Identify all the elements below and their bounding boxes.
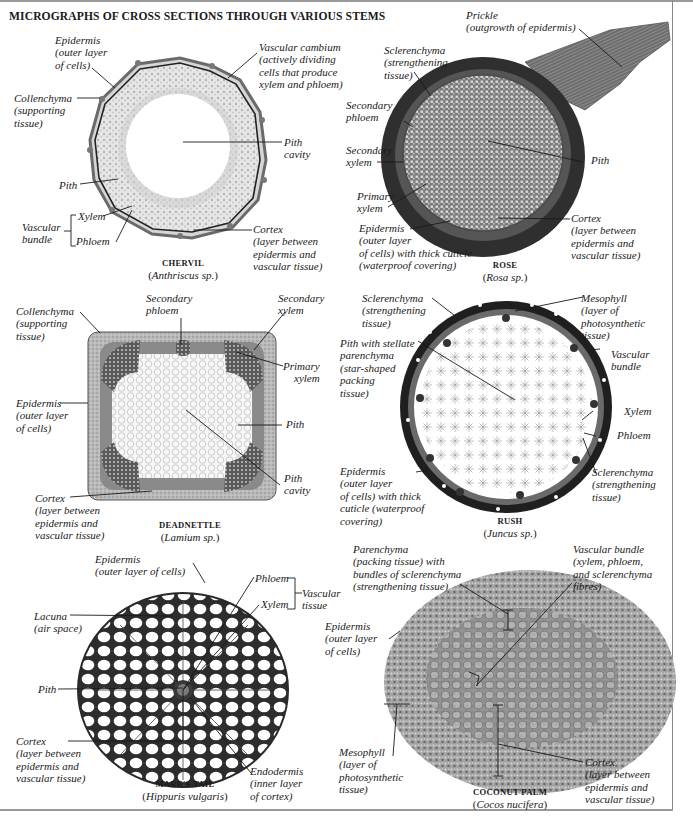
- chervil-caption: CHERVIL (Anthriscus sp.): [128, 258, 238, 282]
- rush-label-mesophyll: Mesophyll (layer of photosynthetic tissu…: [581, 292, 645, 342]
- rush-label-vascular-bundle: Vascular bundle: [611, 348, 650, 373]
- rush-label-epidermis: Epidermis (outer layer of cells) with th…: [340, 465, 424, 527]
- mares-tail-caption: MARE'S TAIL (Hippuris vulgaris): [130, 779, 240, 803]
- chervil-label-xylem: Xylem: [78, 210, 105, 222]
- coconut-palm-label-vascular-bundle: Vascular bundle (xylem, phloem, and scle…: [573, 543, 652, 593]
- mares-tail-stem-illustration: [78, 593, 288, 787]
- rush-label-xylem: Xylem: [624, 405, 651, 417]
- chervil-label-pith: Pith: [59, 179, 77, 191]
- deadnettle-common-name: DEADNETTLE: [135, 520, 245, 531]
- deadnettle-label-collenchyma: Collenchyma (supporting tissue): [16, 305, 74, 342]
- coconut-palm-scientific-name: (Cocos nucifera): [455, 798, 565, 811]
- chervil-label-collenchyma: Collenchyma (supporting tissue): [14, 92, 72, 129]
- stem-illustrations: [0, 0, 693, 827]
- mares-tail-label-cortex: Cortex (layer between epidermis and vasc…: [16, 735, 85, 785]
- chervil-label-cortex: Cortex (layer between epidermis and vasc…: [253, 223, 322, 273]
- rush-common-name: RUSH: [460, 516, 560, 527]
- chervil-scientific-name: (Anthriscus sp.): [128, 269, 238, 282]
- deadnettle-label-secondary-xylem: Secondary xylem: [278, 292, 324, 317]
- rose-label-prickle: Prickle (outgrowth of epidermis): [466, 9, 576, 34]
- mares-tail-label-pith: Pith: [38, 683, 56, 695]
- mares-tail-common-name: MARE'S TAIL: [130, 779, 240, 790]
- rush-label-phloem: Phloem: [617, 429, 651, 441]
- rush-caption: RUSH (Juncus sp.): [460, 516, 560, 540]
- mares-tail-label-epidermis: Epidermis (outer layer of cells): [95, 553, 185, 578]
- chervil-common-name: CHERVIL: [128, 258, 238, 269]
- deadnettle-caption: DEADNETTLE (Lamium sp.): [135, 520, 245, 544]
- chervil-label-vascular-bundle: Vascular bundle: [22, 221, 61, 246]
- mares-tail-label-phloem: Phloem: [255, 572, 289, 584]
- coconut-palm-caption: COCONUT PALM (Cocos nucifera): [455, 787, 565, 811]
- rose-scientific-name: (Rosa sp.): [455, 271, 555, 284]
- deadnettle-label-cortex: Cortex (layer between epidermis and vasc…: [35, 492, 104, 542]
- rose-label-pith: Pith: [591, 154, 609, 166]
- deadnettle-stem-illustration: [88, 332, 276, 500]
- mares-tail-label-vascular-tissue: Vascular tissue: [302, 587, 341, 612]
- chervil-label-vascular-cambium: Vascular cambium (actively dividing cell…: [259, 41, 343, 91]
- chervil-stem-illustration: [87, 58, 267, 239]
- chervil-label-epidermis: Epidermis (outer layer of cells): [55, 34, 107, 71]
- rush-label-sclerenchyma-bottom: Sclerenchyma (strengthening tissue): [592, 466, 656, 503]
- deadnettle-label-epidermis: Epidermis (outer layer of cells): [16, 397, 68, 434]
- coconut-palm-label-mesophyll: Mesophyll (layer of photosynthetic tissu…: [339, 746, 403, 796]
- deadnettle-scientific-name: (Lamium sp.): [135, 531, 245, 544]
- mares-tail-scientific-name: (Hippuris vulgaris): [130, 790, 240, 803]
- rose-label-secondary-phloem: Secondary phloem: [346, 99, 392, 124]
- coconut-palm-label-parenchyma: Parenchyma (packing tissue) with bundles…: [353, 543, 461, 593]
- deadnettle-label-secondary-phloem: Secondary phloem: [146, 292, 192, 317]
- rose-label-secondary-xylem: Secondary xylem: [346, 144, 392, 169]
- coconut-palm-common-name: COCONUT PALM: [455, 787, 565, 798]
- rush-label-pith: Pith with stellate parenchyma (star-shap…: [340, 337, 415, 399]
- chervil-label-pith-cavity: Pith cavity: [284, 136, 310, 161]
- coconut-palm-label-epidermis: Epidermis (outer layer of cells): [325, 620, 377, 657]
- rose-caption: ROSE (Rosa sp.): [455, 260, 555, 284]
- rush-label-sclerenchyma-top: Sclerenchyma (strengthening tissue): [362, 292, 426, 329]
- rose-label-sclerenchyma: Sclerenchyma (strengthening tissue): [384, 44, 448, 81]
- mares-tail-label-xylem: Xylem: [261, 598, 288, 610]
- deadnettle-label-pith: Pith: [286, 418, 304, 430]
- deadnettle-label-pith-cavity: Pith cavity: [284, 472, 310, 497]
- rose-label-primary-xylem: Primary xylem: [357, 190, 394, 215]
- mares-tail-label-lacuna: Lacuna (air space): [34, 610, 82, 635]
- rose-common-name: ROSE: [455, 260, 555, 271]
- rose-label-cortex: Cortex (layer between epidermis and vasc…: [571, 212, 640, 262]
- mares-tail-label-endodermis: Endodermis (inner layer of cortex): [250, 765, 303, 802]
- coconut-palm-label-cortex: Cortex (layer between epidermis and vasc…: [585, 756, 654, 806]
- chervil-label-phloem: Phloem: [76, 235, 110, 247]
- deadnettle-label-primary-xylem: Primary xylem: [283, 360, 320, 385]
- rush-scientific-name: (Juncus sp.): [460, 527, 560, 540]
